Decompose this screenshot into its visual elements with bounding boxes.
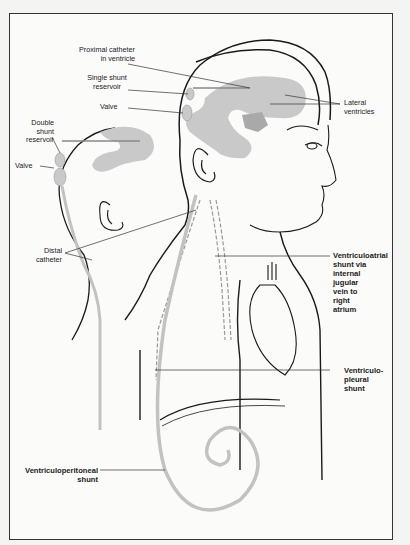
- front-ear: [193, 149, 215, 182]
- ventriculopleural-catheter: [156, 200, 200, 380]
- face-profile: [250, 125, 336, 232]
- back-ventricle: [92, 127, 154, 172]
- valve-icon: [182, 105, 192, 121]
- label-valve-left: Valve: [15, 162, 32, 171]
- label-valve-top: Valve: [100, 103, 117, 112]
- label-single-shunt-reservoir: Single shunt reservoir: [82, 74, 132, 91]
- label-ventriculopleural-shunt: Ventriculo- pleural shunt: [344, 366, 383, 393]
- back-ear: [100, 202, 123, 231]
- rib: [160, 399, 280, 420]
- torso-outline: [125, 225, 322, 480]
- label-ventriculoatrial-shunt: Ventriculoatrial shunt via internal jugu…: [333, 251, 388, 314]
- double-reservoir-icon: [54, 153, 66, 186]
- label-proximal-catheter: Proximal catheter in ventricle: [60, 46, 135, 63]
- label-lateral-ventricles: Lateral ventricles: [344, 99, 374, 116]
- distal-catheter-back: [62, 186, 100, 430]
- label-distal-catheter: Distal catheter: [18, 247, 62, 264]
- ventriculoatrial-catheter: [210, 200, 225, 340]
- heart: [250, 262, 296, 375]
- label-ventriculoperitoneal-shunt: Ventriculoperitoneal shunt: [10, 466, 98, 484]
- label-double-shunt-reservoir: Double shunt reservoir: [10, 119, 54, 145]
